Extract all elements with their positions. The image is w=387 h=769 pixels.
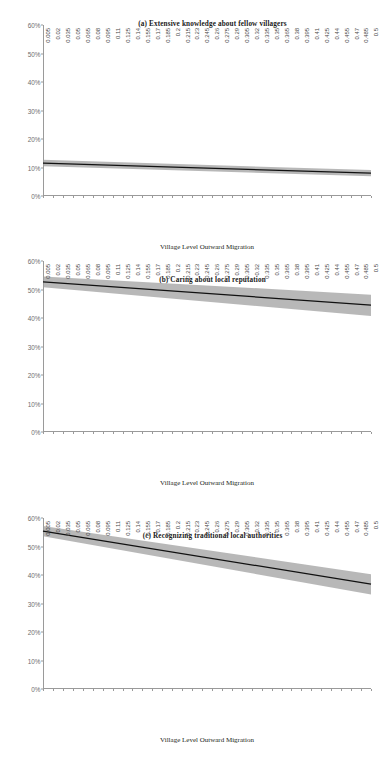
panel-a-x-tick-label: 0.485 <box>363 28 369 43</box>
panel-c-x-tick-label: 0.155 <box>145 521 151 536</box>
panel-c-x-tick-label: 0.5 <box>373 521 379 529</box>
panel-c-x-tick-mark <box>341 689 342 691</box>
panel-a-y-tick-label: 50% <box>28 50 41 57</box>
panel-c-x-tick-mark <box>93 689 94 691</box>
panel-a-x-tick-label: 0.2 <box>175 28 181 36</box>
panel-c-series <box>43 518 371 689</box>
panel-c-y-tick-label: 30% <box>28 600 41 607</box>
panel-c-x-tick-mark <box>53 689 54 691</box>
panel-b-x-tick-label: 0.11 <box>115 264 121 275</box>
panel-a-y-tick-label: 40% <box>28 79 41 86</box>
panel-b-x-tick-label: 0.32 <box>254 264 260 275</box>
panel-a-x-tick-label: 0.44 <box>334 28 340 39</box>
panel-c-x-tick-mark <box>272 689 273 691</box>
panel-b-x-tick-mark <box>123 432 124 434</box>
panel-a-x-tick-mark <box>222 196 223 198</box>
panel-c-x-tick-label: 0.38 <box>294 521 300 532</box>
panel-b-x-tick-mark <box>321 432 322 434</box>
panel-b-x-tick-label: 0.485 <box>363 264 369 279</box>
panel-b-x-tick-mark <box>282 432 283 434</box>
panel-b-x-tick-mark <box>103 432 104 434</box>
panel-a-x-tick-mark <box>182 196 183 198</box>
panel-b-y-tick-mark <box>41 375 44 376</box>
panel-c-x-tick-mark <box>103 689 104 691</box>
panel-b-x-tick-label: 0.17 <box>155 264 161 275</box>
panel-a-x-tick-label: 0.26 <box>214 28 220 39</box>
panel-a-x-tick-label: 0.35 <box>274 28 280 39</box>
panel-c-x-tick-label: 0.44 <box>334 521 340 532</box>
panel-c-y-tick-label: 10% <box>28 657 41 664</box>
panel-a-x-tick-label: 0.125 <box>125 28 131 43</box>
panel-b-x-tick-label: 0.425 <box>324 264 330 279</box>
panel-c-x-tick-label: 0.23 <box>194 521 200 532</box>
panel-a-fit-line <box>43 163 371 173</box>
panel-a-x-tick-mark <box>331 196 332 198</box>
panel-b-x-tick-label: 0.335 <box>264 264 270 279</box>
panel-c-x-tick-label: 0.17 <box>155 521 161 532</box>
panel-b-x-tick-label: 0.365 <box>284 264 290 279</box>
panel-b-x-tick-mark <box>252 432 253 434</box>
panel-b-x-tick-label: 0.005 <box>45 264 51 279</box>
panel-b-x-tick-label: 0.14 <box>135 264 141 275</box>
panel-c-x-tick-mark <box>43 689 44 691</box>
panel-a-x-tick-label: 0.215 <box>185 28 191 43</box>
panel-c-x-tick-label: 0.395 <box>304 521 310 536</box>
panel-a-x-tick-label: 0.05 <box>75 28 81 39</box>
panel-c-x-tick-mark <box>242 689 243 691</box>
panel-b-x-tick-label: 0.47 <box>354 264 360 275</box>
panel-a-x-tick-label: 0.47 <box>354 28 360 39</box>
panel-c-x-tick-mark <box>252 689 253 691</box>
panel-c: (c) Recognizing traditional local author… <box>0 512 387 769</box>
panel-a-x-tick-label: 0.395 <box>304 28 310 43</box>
panel-c-x-tick-label: 0.335 <box>264 521 270 536</box>
panel-c-x-tick-mark <box>73 689 74 691</box>
panel-a-y-tick-mark <box>41 110 44 111</box>
panel-c-x-tick-label: 0.485 <box>363 521 369 536</box>
panel-c-x-tick-mark <box>331 689 332 691</box>
panel-b-x-tick-mark <box>172 432 173 434</box>
panel-a-x-tick-mark <box>192 196 193 198</box>
panel-b-x-tick-label: 0.29 <box>234 264 240 275</box>
panel-a-x-tick-label: 0.02 <box>55 28 61 39</box>
panel-c-x-tick-label: 0.245 <box>204 521 210 536</box>
panel-c-x-tick-mark <box>291 689 292 691</box>
panel-a-x-tick-label: 0.5 <box>373 28 379 36</box>
panel-c-x-tick-mark <box>162 689 163 691</box>
panel-a-x-tick-label: 0.29 <box>234 28 240 39</box>
panel-c-plot-area: 0%10%20%30%40%50%60%0.0050.020.0350.050.… <box>43 518 371 689</box>
panel-c-x-tick-label: 0.02 <box>55 521 61 532</box>
panel-a-x-tick-label: 0.275 <box>224 28 230 43</box>
panel-a-x-tick-mark <box>252 196 253 198</box>
panel-b-x-tick-mark <box>361 432 362 434</box>
panel-b-x-tick-label: 0.185 <box>165 264 171 279</box>
panel-c-y-tick-mark <box>41 575 44 576</box>
panel-c-x-tick-label: 0.41 <box>314 521 320 532</box>
panel-a-y-tick-label: 60% <box>28 22 41 29</box>
panel-b-y-tick-label: 10% <box>28 400 41 407</box>
panel-c-x-tick-mark <box>172 689 173 691</box>
panel-a-x-tick-mark <box>162 196 163 198</box>
panel-a-x-tick-label: 0.41 <box>314 28 320 39</box>
panel-b-x-tick-label: 0.125 <box>125 264 131 279</box>
panel-a-x-tick-mark <box>311 196 312 198</box>
panel-a-x-tick-label: 0.32 <box>254 28 260 39</box>
panel-b-x-tick-label: 0.44 <box>334 264 340 275</box>
panel-a-plot-area: 0%10%20%30%40%50%60%0.0050.020.0350.050.… <box>43 25 371 196</box>
panel-c-x-tick-label: 0.065 <box>85 521 91 536</box>
panel-a-y-tick-mark <box>41 167 44 168</box>
panel-c-x-axis-title: Village Level Outward Migration <box>43 736 371 744</box>
panel-a-x-tick-mark <box>291 196 292 198</box>
panel-c-x-tick-mark <box>262 689 263 691</box>
panel-a-x-tick-mark <box>172 196 173 198</box>
panel-a-x-axis-title: Village Level Outward Migration <box>43 243 371 251</box>
panel-a-x-tick-label: 0.11 <box>115 28 121 39</box>
panel-c-y-tick-mark <box>41 660 44 661</box>
panel-c-x-tick-label: 0.125 <box>125 521 131 536</box>
panel-c-fit-line <box>43 531 371 584</box>
panel-c-x-tick-mark <box>321 689 322 691</box>
panel-a-x-tick-label: 0.005 <box>45 28 51 43</box>
panel-b-x-tick-mark <box>43 432 44 434</box>
panel-a-x-tick-mark <box>242 196 243 198</box>
panel-c-x-tick-mark <box>142 689 143 691</box>
panel-b-x-tick-label: 0.035 <box>65 264 71 279</box>
